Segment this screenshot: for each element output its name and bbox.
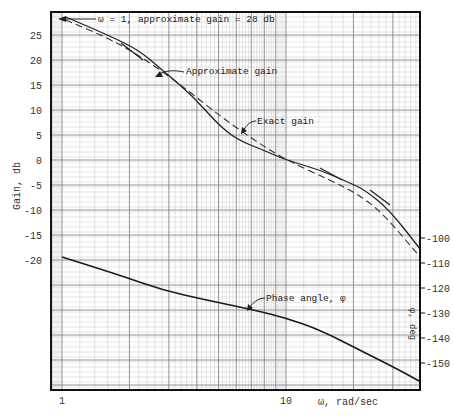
x-tick-label: 1 <box>59 396 65 407</box>
y-right-tick-label: -120 <box>426 284 450 295</box>
y-right-tick-label: -100 <box>426 234 450 245</box>
y-tick-label: 10 <box>30 106 42 117</box>
x-tick-label: 10 <box>280 396 292 407</box>
arrow-icon <box>158 71 184 75</box>
y-tick-label: 0 <box>36 156 42 167</box>
y-tick-label: -20 <box>24 256 42 267</box>
y-tick-label: 15 <box>30 81 42 92</box>
annotation-exact-gain: Exact gain <box>241 116 314 134</box>
y-axis-label: Gain, db <box>12 162 23 210</box>
annotation-text: Phase angle, φ <box>266 293 346 304</box>
y-tick-label: -15 <box>24 231 42 242</box>
gain-axis-ticks: 2520151050-5-10-15-20 <box>24 31 42 267</box>
asymptote-mark <box>320 168 342 180</box>
y-tick-label: -5 <box>30 181 42 192</box>
annotation-text: Exact gain <box>257 116 314 127</box>
y-tick-label: 20 <box>30 56 42 67</box>
x-axis-label: ω, rad/sec <box>318 397 378 408</box>
y-tick-label: -10 <box>24 206 42 217</box>
phase-angle-curve <box>62 257 421 382</box>
y-tick-label: 25 <box>30 31 42 42</box>
annotation-text: Approximate gain <box>186 66 277 77</box>
curve-path <box>62 257 421 382</box>
y-tick-label: 5 <box>36 131 42 142</box>
y-right-tick-label: -140 <box>426 334 450 345</box>
phase-axis-ticks: -100-110-120-130-140-150 <box>420 234 450 370</box>
annotation-approximate-gain: Approximate gain <box>155 66 277 77</box>
y-axis-right-label: φ, deg <box>407 308 417 340</box>
annotation-text: ω = 1, approximate gain = 28 db <box>98 14 275 25</box>
frequency-axis-ticks: 110 <box>59 396 292 407</box>
y-right-tick-label: -150 <box>426 359 450 370</box>
y-right-tick-label: -130 <box>426 309 450 320</box>
bode-plot: 2520151050-5-10-15-20 -100-110-120-130-1… <box>0 0 454 417</box>
y-right-tick-label: -110 <box>426 259 450 270</box>
annotation-omega-1: ω = 1, approximate gain = 28 db <box>58 14 275 25</box>
